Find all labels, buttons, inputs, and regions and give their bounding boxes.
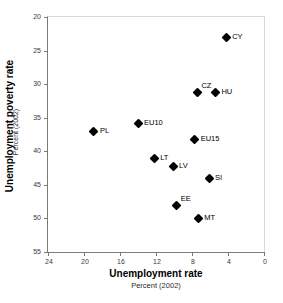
x-axis-subtitle: Percent (2002) (47, 281, 265, 291)
data-point-label: LV (179, 161, 188, 170)
plot-area: 202530354045505524201612840CYCZHUEU10PLE… (47, 16, 265, 253)
data-point-label: SI (215, 173, 222, 182)
x-axis-tick-label: 0 (263, 257, 267, 267)
diamond-marker-icon (89, 126, 99, 136)
x-axis-tick: 8 (192, 252, 193, 256)
x-axis-tick: 16 (120, 252, 121, 256)
y-axis-tick-label: 55 (33, 247, 41, 257)
y-axis-tick-label: 35 (33, 113, 41, 123)
data-point-label: EU10 (144, 118, 163, 127)
data-point-label: MT (204, 213, 215, 222)
x-axis-tick: 4 (228, 252, 229, 256)
diamond-marker-icon (221, 32, 231, 42)
x-axis-title: Unemployment rate (47, 268, 265, 280)
data-point-label: PL (100, 126, 109, 135)
diamond-marker-icon (204, 173, 214, 183)
x-axis-tick-label: 12 (153, 257, 161, 267)
data-point-label: EE (181, 194, 191, 203)
y-axis-tick: 25 (44, 51, 48, 52)
y-axis-subtitle-container: Percent (2002) (11, 77, 23, 187)
y-axis-tick-label: 45 (33, 180, 41, 190)
x-axis-tick-label: 8 (191, 257, 195, 267)
y-axis-tick-label: 20 (33, 12, 41, 22)
y-axis-tick: 30 (44, 84, 48, 85)
x-axis-tick: 0 (264, 252, 265, 256)
y-axis-tick-label: 40 (33, 146, 41, 156)
x-axis-tick: 24 (48, 252, 49, 256)
diamond-marker-icon (168, 161, 178, 171)
y-axis-tick: 20 (44, 17, 48, 18)
data-point-label: LT (160, 153, 168, 162)
y-axis-tick-label: 30 (33, 79, 41, 89)
diamond-marker-icon (210, 87, 220, 97)
y-axis-subtitle: Percent (2002) (11, 77, 20, 187)
diamond-marker-icon (190, 134, 200, 144)
scatter-chart: 202530354045505524201612840CYCZHUEU10PLE… (0, 0, 283, 303)
x-axis-tick-label: 20 (81, 257, 89, 267)
data-point-label: CY (232, 32, 242, 41)
y-axis-tick: 45 (44, 185, 48, 186)
y-axis-tick: 35 (44, 118, 48, 119)
x-axis-tick-label: 24 (45, 257, 53, 267)
x-axis-tick-label: 16 (117, 257, 125, 267)
diamond-marker-icon (149, 153, 159, 163)
y-axis-tick: 40 (44, 151, 48, 152)
data-point-label: CZ (201, 81, 211, 90)
diamond-marker-icon (193, 213, 203, 223)
diamond-marker-icon (133, 118, 143, 128)
y-axis-tick: 50 (44, 218, 48, 219)
data-point-label: EU15 (201, 134, 220, 143)
data-point-label: HU (221, 87, 232, 96)
x-axis-tick: 12 (156, 252, 157, 256)
x-axis-tick-label: 4 (227, 257, 231, 267)
y-axis-tick-label: 50 (33, 213, 41, 223)
y-axis-tick-label: 25 (33, 46, 41, 56)
x-axis-tick: 20 (84, 252, 85, 256)
